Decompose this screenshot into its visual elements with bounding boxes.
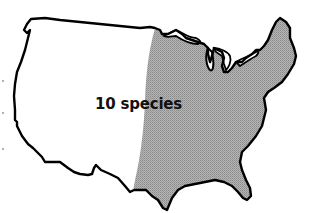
scan-mark	[2, 112, 4, 114]
species-count-label: 10 species	[95, 95, 182, 113]
us-map: 10 species	[0, 0, 328, 213]
scan-mark	[2, 148, 4, 150]
scan-mark	[2, 80, 4, 82]
